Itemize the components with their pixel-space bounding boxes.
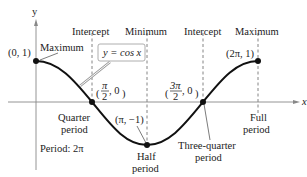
label-half-1: Half <box>137 151 156 162</box>
point-intercept-pi-half <box>89 99 95 105</box>
svg-text:): ) <box>195 88 199 100</box>
label-maximum-1: Maximum <box>40 42 84 53</box>
y-axis-label: y <box>32 6 38 17</box>
label-quarter-2: period <box>61 124 89 135</box>
leader-three-quarter <box>204 104 210 140</box>
leader-maximum-1 <box>40 53 58 60</box>
x-axis-label: x <box>301 96 307 107</box>
label-point-3pi-half: ( 3π 2 , 0 ) <box>165 80 199 102</box>
label-period: Period: 2π <box>40 143 84 154</box>
svg-text:π: π <box>102 80 108 91</box>
svg-text:2: 2 <box>173 91 178 102</box>
svg-text:(: ( <box>165 88 169 100</box>
point-min-pi <box>144 142 150 148</box>
x-axis-arrow-icon <box>293 100 300 104</box>
label-intercept-1: Intercept <box>72 26 109 37</box>
point-intercept-3pi-half <box>200 99 206 105</box>
svg-text:2: 2 <box>102 91 107 102</box>
svg-text:, 0: , 0 <box>182 85 193 96</box>
svg-text:3π: 3π <box>169 80 181 91</box>
label-maximum-2: Maximum <box>235 26 279 37</box>
label-point-pi-half: ( π 2 , 0 ) <box>96 80 126 102</box>
label-three-1: Three-quarter <box>178 140 236 151</box>
y-axis-arrow-icon <box>34 19 38 26</box>
point-max-2pi <box>255 58 261 64</box>
svg-text:(: ( <box>96 88 100 100</box>
label-quarter-1: Quarter <box>58 112 91 123</box>
label-point-2pi-1: (2π, 1) <box>226 48 255 60</box>
label-half-2: period <box>132 163 160 174</box>
svg-text:, 0: , 0 <box>109 85 120 96</box>
label-full-2: period <box>243 124 271 135</box>
point-max-0 <box>33 58 39 64</box>
label-intercept-2: Intercept <box>184 26 221 37</box>
svg-text:): ) <box>122 88 126 100</box>
label-minimum: Minimum <box>125 26 167 37</box>
label-three-2: period <box>195 152 223 163</box>
cosine-chart: y x Intercept Minimum Intercept Maximum … <box>0 0 307 177</box>
label-point-0-1: (0, 1) <box>8 47 31 59</box>
label-point-pi-neg1: (π, −1) <box>115 114 144 126</box>
leader-min <box>137 126 146 143</box>
function-label: y = cos x <box>102 47 142 58</box>
label-full-1: Full <box>250 112 267 123</box>
